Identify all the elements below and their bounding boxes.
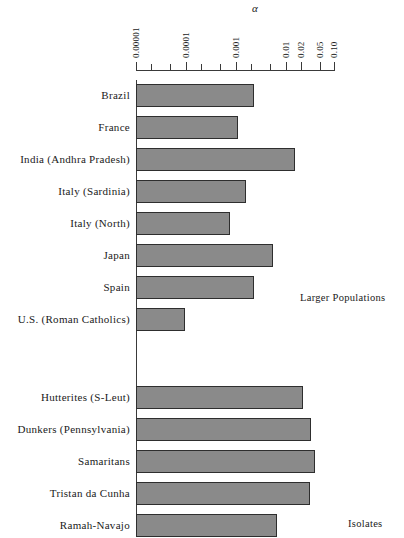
bar-row-label: Hutterites (S-Leut) <box>41 386 130 409</box>
bar-row-label: France <box>98 116 130 139</box>
x-axis-tick <box>236 62 237 71</box>
bar-row-label: U.S. (Roman Catholics) <box>18 308 130 331</box>
bar <box>136 244 273 267</box>
x-axis-tick-label: 0.10 <box>329 0 339 58</box>
bar-row: India (Andhra Pradesh) <box>0 148 404 171</box>
x-axis-tick <box>334 62 335 71</box>
bar <box>136 482 310 505</box>
bar <box>136 84 254 107</box>
x-axis-tick <box>220 64 221 71</box>
x-axis-tick <box>151 64 152 71</box>
bar <box>136 148 295 171</box>
bar <box>136 308 185 331</box>
bar-row-label: Ramah-Navajo <box>60 514 130 537</box>
bar-row-label: Brazil <box>101 84 130 107</box>
bar-row: France <box>0 116 404 139</box>
bar-row: Italy (North) <box>0 212 404 235</box>
bar-row-label: Spain <box>103 276 130 299</box>
bar-row-label: Tristan da Cunha <box>50 482 130 505</box>
x-axis-tick <box>201 64 202 71</box>
x-axis-tick-label: 0.0001 <box>181 0 191 58</box>
bar-row: Italy (Sardinia) <box>0 180 404 203</box>
x-axis-tick-label: 0.001 <box>231 0 241 58</box>
x-axis-tick-label: 0.02 <box>296 0 306 58</box>
bar-row-label: Japan <box>103 244 130 267</box>
x-axis-tick <box>320 62 321 71</box>
bar-row-label: Dunkers (Pennsylvania) <box>17 418 130 441</box>
x-axis-tick <box>170 64 171 71</box>
bar-row: Hutterites (S-Leut) <box>0 386 404 409</box>
bar <box>136 450 315 473</box>
bar-row-label: India (Andhra Pradesh) <box>20 148 130 171</box>
x-axis-tick <box>270 64 271 71</box>
bar <box>136 212 230 235</box>
x-axis-line <box>136 70 334 71</box>
bar <box>136 116 238 139</box>
x-axis-tick-label: 0.05 <box>315 0 325 58</box>
bar <box>136 418 311 441</box>
x-axis-tick <box>186 62 187 71</box>
bar-row: Samaritans <box>0 450 404 473</box>
x-axis-tick <box>136 62 137 71</box>
bar-row-label: Samaritans <box>78 450 130 473</box>
x-axis-tick-label: 0.00001 <box>131 0 141 58</box>
bar-row-label: Italy (North) <box>70 212 130 235</box>
bar-row: Tristan da Cunha <box>0 482 404 505</box>
x-axis-tick <box>251 64 252 71</box>
bar <box>136 514 277 537</box>
inbreeding-coefficient-bar-chart: α 0.000010.00010.0010.010.020.050.10 Bra… <box>0 0 404 538</box>
bar-row: Brazil <box>0 84 404 107</box>
x-axis-tick <box>301 62 302 71</box>
group-label-larger-populations: Larger Populations <box>300 292 385 303</box>
bar-row: U.S. (Roman Catholics) <box>0 308 404 331</box>
x-axis-tick-label: 0.01 <box>281 0 291 58</box>
bar-row: Ramah-Navajo <box>0 514 404 537</box>
x-axis-tick <box>286 62 287 71</box>
bar-row: Japan <box>0 244 404 267</box>
group-label-isolates: Isolates <box>348 518 382 529</box>
bar <box>136 180 246 203</box>
bar-row-label: Italy (Sardinia) <box>58 180 130 203</box>
bar <box>136 386 303 409</box>
bar <box>136 276 254 299</box>
bar-row: Dunkers (Pennsylvania) <box>0 418 404 441</box>
x-axis: 0.000010.00010.0010.010.020.050.10 <box>0 0 404 80</box>
plot-area: BrazilFranceIndia (Andhra Pradesh)Italy … <box>0 80 404 538</box>
